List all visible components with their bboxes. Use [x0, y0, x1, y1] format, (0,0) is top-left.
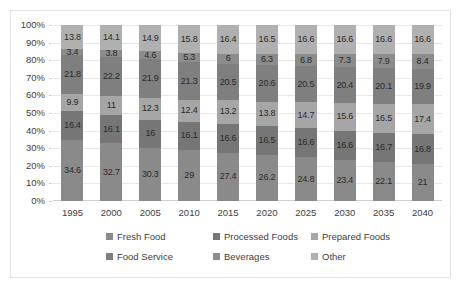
bar-segment[interactable]: 16.5: [256, 126, 278, 155]
bar-segment[interactable]: 6: [217, 54, 239, 65]
legend-item[interactable]: Fresh Food: [106, 229, 166, 243]
bar-segment[interactable]: 17.4: [412, 104, 434, 135]
bar-value-label: 4.6: [144, 51, 156, 60]
bar-segment[interactable]: 5.3: [178, 53, 200, 62]
bar-segment[interactable]: 12.4: [178, 100, 200, 122]
bar-column[interactable]: 23.416.615.620.47.316.6: [334, 25, 356, 201]
bar-segment[interactable]: 24.8: [295, 157, 317, 201]
bar-value-label: 17.4: [414, 115, 431, 124]
bar-segment[interactable]: 6.8: [295, 54, 317, 66]
bar-segment[interactable]: 20.5: [217, 64, 239, 100]
bar-segment[interactable]: 29: [178, 150, 200, 201]
bar-value-label: 6: [226, 54, 231, 63]
bar-column[interactable]: 26.216.513.820.66.316.5: [256, 25, 278, 201]
bar-segment[interactable]: 9.9: [61, 94, 83, 111]
bar-segment[interactable]: 6.3: [256, 54, 278, 65]
bar-column[interactable]: 34.616.49.921.83.413.8: [61, 25, 83, 201]
bar-column[interactable]: 24.816.614.720.56.816.6: [295, 25, 317, 201]
bar-segment[interactable]: 15.8: [178, 25, 200, 53]
bar-value-label: 22.1: [375, 177, 392, 186]
legend-label: Other: [322, 251, 346, 262]
chart-container: 100%90%80%70%60%50%40%30%20%10%0% 34.616…: [10, 10, 451, 278]
bar-value-label: 5.3: [183, 53, 195, 62]
bar-segment[interactable]: 20.5: [295, 66, 317, 102]
bar-segment[interactable]: 21: [412, 164, 434, 201]
bar-segment[interactable]: 16.6: [334, 25, 356, 54]
bar-segment[interactable]: 16.7: [373, 133, 395, 162]
bar-column[interactable]: 22.116.716.520.17.916.6: [373, 25, 395, 201]
bar-segment[interactable]: 16.5: [256, 25, 278, 54]
bar-segment[interactable]: 3.8: [100, 50, 122, 57]
bar-segment[interactable]: 16.1: [178, 122, 200, 150]
bar-segment[interactable]: 16.1: [100, 115, 122, 143]
bar-value-label: 20.5: [297, 80, 314, 89]
legend-item[interactable]: Processed Foods: [213, 229, 298, 243]
bar-value-label: 13.8: [259, 109, 276, 118]
bar-value-label: 16.6: [336, 141, 353, 150]
bar-segment[interactable]: 16: [139, 120, 161, 148]
bar-segment[interactable]: 32.7: [100, 143, 122, 201]
bar-value-label: 7.9: [378, 57, 390, 66]
bar-segment[interactable]: 20.6: [256, 65, 278, 101]
bar-segment[interactable]: 11: [100, 96, 122, 115]
bar-value-label: 13.8: [64, 33, 81, 42]
bar-segment[interactable]: 20.1: [373, 68, 395, 103]
bar-segment[interactable]: 7.3: [334, 54, 356, 67]
x-axis-tick-label: 2020: [247, 207, 287, 218]
bar-value-label: 3.8: [105, 49, 117, 58]
bar-segment[interactable]: 23.4: [334, 160, 356, 201]
bar-value-label: 34.6: [64, 166, 81, 175]
bar-segment[interactable]: 16.6: [217, 124, 239, 153]
bar-column[interactable]: 2916.112.421.35.315.8: [178, 25, 200, 201]
legend-item[interactable]: Food Service: [106, 249, 173, 263]
bar-segment[interactable]: 19.9: [412, 69, 434, 104]
bar-column[interactable]: 27.416.613.220.5616.4: [217, 25, 239, 201]
bar-segment[interactable]: 13.8: [61, 25, 83, 49]
y-axis-tick-label: 30%: [26, 143, 45, 153]
bar-segment[interactable]: 13.2: [217, 100, 239, 123]
bar-segment[interactable]: 21.8: [61, 55, 83, 93]
bar-value-label: 23.4: [336, 176, 353, 185]
x-axis-tick-label: 2005: [130, 207, 170, 218]
legend-swatch-icon: [311, 233, 318, 240]
bar-segment[interactable]: 14.7: [295, 102, 317, 128]
bar-segment[interactable]: 22.1: [373, 162, 395, 201]
bar-segment[interactable]: 20.4: [334, 67, 356, 103]
bar-segment[interactable]: 22.2: [100, 57, 122, 96]
bar-value-label: 15.6: [336, 112, 353, 121]
bar-segment[interactable]: 3.4: [61, 49, 83, 55]
bar-segment[interactable]: 15.6: [334, 103, 356, 130]
bar-segment[interactable]: 16.6: [373, 25, 395, 54]
bar-segment[interactable]: 27.4: [217, 153, 239, 201]
bar-segment[interactable]: 21.9: [139, 59, 161, 98]
bar-segment[interactable]: 7.9: [373, 54, 395, 68]
bar-segment[interactable]: 16.6: [295, 128, 317, 157]
bar-segment[interactable]: 16.5: [373, 104, 395, 133]
bar-segment[interactable]: 30.3: [139, 148, 161, 201]
bar-segment[interactable]: 4.6: [139, 51, 161, 59]
bar-segment[interactable]: 26.2: [256, 155, 278, 201]
bar-value-label: 8.4: [417, 57, 429, 66]
bar-segment[interactable]: 16.6: [412, 25, 434, 54]
x-axis-tick-label: 2025: [286, 207, 326, 218]
bar-segment[interactable]: 14.9: [139, 25, 161, 51]
legend-item[interactable]: Beverages: [213, 249, 269, 263]
bar-segment[interactable]: 13.8: [256, 102, 278, 126]
bar-segment[interactable]: 16.6: [295, 25, 317, 54]
bar-segment[interactable]: 16.4: [61, 111, 83, 140]
bar-column[interactable]: 2116.817.419.98.416.6: [412, 25, 434, 201]
bar-segment[interactable]: 14.1: [100, 25, 122, 50]
bar-column[interactable]: 30.31612.321.94.614.9: [139, 25, 161, 201]
bar-segment[interactable]: 16.6: [334, 131, 356, 160]
bar-segment[interactable]: 8.4: [412, 54, 434, 69]
bar-segment[interactable]: 21.3: [178, 62, 200, 99]
bar-segment[interactable]: 16.8: [412, 134, 434, 164]
bar-segment[interactable]: 12.3: [139, 98, 161, 120]
bar-value-label: 7.3: [339, 56, 351, 65]
legend-item[interactable]: Prepared Foods: [311, 229, 390, 243]
bar-column[interactable]: 32.716.11122.23.814.1: [100, 25, 122, 201]
bar-segment[interactable]: 34.6: [61, 140, 83, 201]
bar-segment[interactable]: 16.4: [217, 25, 239, 54]
y-axis-tick-mark: [49, 25, 52, 26]
legend-item[interactable]: Other: [311, 249, 346, 263]
